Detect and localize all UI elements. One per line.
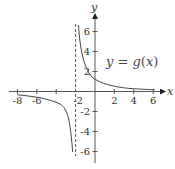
y-tick-label: 4 — [84, 46, 90, 57]
x-tick-label: 6 — [150, 95, 156, 106]
x-tick-label: 2 — [111, 95, 117, 106]
y-tick-label: -2 — [80, 106, 90, 117]
x-tick-label: -8 — [13, 95, 23, 106]
y-tick-label: -4 — [80, 126, 90, 137]
y-tick-label: 6 — [84, 26, 90, 37]
y-tick-label: -6 — [80, 146, 90, 157]
x-tick-label: 4 — [131, 95, 137, 106]
curve-left-branch — [17, 95, 72, 152]
graph: -8 -6 -2 2 4 6 6 4 2 -2 -4 -6 x y y = g(… — [0, 0, 175, 169]
x-tick-label: -2 — [73, 95, 83, 106]
x-axis-label: x — [167, 85, 174, 98]
function-label: y = g(x) — [105, 54, 158, 69]
y-axis-label: y — [90, 1, 98, 14]
